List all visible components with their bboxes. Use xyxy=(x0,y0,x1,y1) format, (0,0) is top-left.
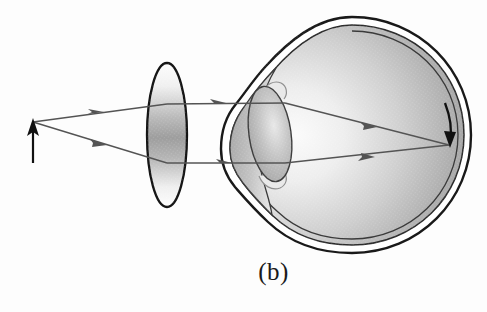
corrective-lens xyxy=(147,63,187,207)
object-arrow xyxy=(27,118,39,163)
eyeball-group xyxy=(221,17,471,253)
figure-caption: (b) xyxy=(0,258,487,286)
figure-root: (b) xyxy=(0,0,487,312)
